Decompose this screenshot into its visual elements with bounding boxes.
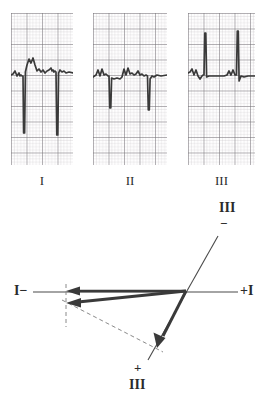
strip-label-lead-2: II bbox=[93, 174, 167, 187]
mean-axis-vector-arrowhead bbox=[66, 298, 81, 308]
lead-I-vector-arrowhead bbox=[66, 287, 80, 296]
ecg-strip-2-canvas bbox=[93, 13, 167, 165]
ecg-axis-figure: I II bbox=[0, 0, 275, 409]
lead-III-positive-sign-label: + bbox=[134, 363, 141, 373]
ecg-strip-lead-2 bbox=[93, 13, 167, 165]
lead-III-negative-sign-label: − bbox=[220, 219, 227, 229]
lead-III-deflection-vector bbox=[163, 291, 186, 336]
strip-1-grid bbox=[11, 13, 73, 165]
strip-2-grid bbox=[93, 13, 167, 165]
mean-axis-resultant-vector bbox=[78, 291, 186, 302]
lead-I-negative-label: I− bbox=[14, 284, 27, 298]
lead-III-negative-label: III bbox=[219, 201, 235, 215]
perpendicular-dashed-lead-III bbox=[62, 300, 163, 352]
strip-label-lead-3: III bbox=[188, 174, 255, 187]
lead-III-positive-label: III bbox=[129, 378, 145, 392]
strip-3-grid bbox=[188, 13, 255, 165]
ecg-strip-3-canvas bbox=[188, 13, 255, 165]
ecg-strip-lead-1 bbox=[11, 13, 73, 165]
lead-I-positive-label: +I bbox=[240, 284, 253, 298]
strip-label-lead-1: I bbox=[11, 174, 73, 187]
ecg-strip-lead-3 bbox=[188, 13, 255, 165]
ecg-strip-1-canvas bbox=[11, 13, 73, 165]
